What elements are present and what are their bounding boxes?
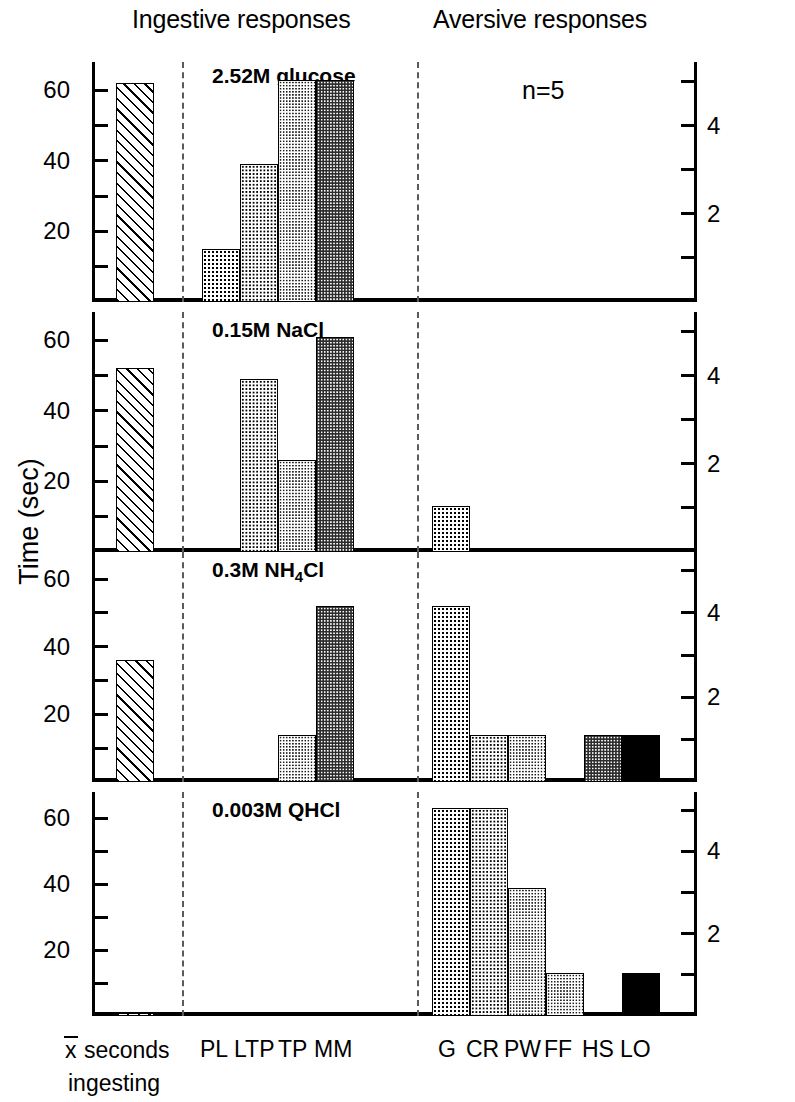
y-tick-right-1	[681, 506, 694, 509]
group-separator-2	[417, 62, 419, 302]
bar-g	[432, 808, 470, 1016]
y-tick-right-5	[681, 330, 694, 333]
y-tick-label-right-2: 2	[707, 685, 720, 709]
x-label-cr: CR	[466, 1036, 499, 1063]
bar-hs	[584, 735, 622, 782]
y-tick-right-2	[681, 932, 694, 935]
x-label-g: G	[438, 1036, 456, 1063]
group-separator-1	[182, 792, 184, 1016]
y-tick-left-40	[95, 883, 108, 886]
bar-lo	[622, 735, 660, 782]
y-tick-left-20	[95, 480, 108, 483]
x-label-mean: x seconds	[64, 1036, 170, 1064]
panel-title: 0.15M NaCl	[212, 318, 324, 342]
y-tick-label-left-20: 20	[43, 938, 70, 962]
bar-pw	[508, 888, 546, 1016]
y-tick-left-30	[95, 195, 108, 198]
bar-ltp	[240, 164, 278, 302]
axis-line-right	[694, 312, 697, 552]
bar-tp	[278, 735, 316, 782]
y-tick-label-left-60: 60	[43, 328, 70, 352]
y-tick-label-left-60: 60	[43, 567, 70, 591]
y-tick-left-30	[95, 445, 108, 448]
y-tick-right-5	[681, 569, 694, 572]
y-tick-label-left-40: 40	[43, 399, 70, 423]
y-tick-label-right-4: 4	[707, 839, 720, 863]
y-tick-left-60	[95, 578, 108, 581]
y-tick-right-3	[681, 418, 694, 421]
chart-panel-3: 204060240.3M NH4Cl	[92, 552, 697, 782]
chart-panel-1: 204060242.52M glucosen=5	[92, 62, 697, 302]
y-tick-left-10	[95, 747, 108, 750]
y-tick-label-right-4: 4	[707, 364, 720, 388]
y-tick-left-60	[95, 817, 108, 820]
group-separator-2	[417, 552, 419, 782]
y-tick-left-30	[95, 916, 108, 919]
y-axis-left-title: Time (sec)	[14, 397, 45, 647]
bar-g	[432, 506, 470, 552]
x-label-pl: PL	[200, 1036, 228, 1063]
y-tick-left-30	[95, 679, 108, 682]
x-bar-overline: x	[64, 1036, 78, 1062]
y-tick-right-3	[681, 654, 694, 657]
bar-cr	[470, 808, 508, 1016]
y-tick-left-50	[95, 124, 108, 127]
y-tick-right-2	[681, 462, 694, 465]
x-label-ltp: LTP	[234, 1036, 274, 1063]
bar-x-seconds-ingesting	[116, 660, 154, 782]
y-tick-left-40	[95, 645, 108, 648]
bar-mm	[316, 606, 354, 782]
y-tick-right-2	[681, 212, 694, 215]
bar-ff	[546, 973, 584, 1016]
y-tick-label-left-20: 20	[43, 219, 70, 243]
y-tick-right-5	[681, 809, 694, 812]
y-tick-right-1	[681, 973, 694, 976]
x-label-tp: TP	[278, 1036, 307, 1063]
group-separator-2	[417, 792, 419, 1016]
axis-line-right	[694, 552, 697, 782]
plot-area: 204060242.52M glucosen=5	[92, 62, 697, 302]
plot-area: 204060240.003M QHCl	[92, 792, 697, 1016]
bar-x-seconds-ingesting	[116, 368, 154, 552]
y-tick-label-left-20: 20	[43, 469, 70, 493]
x-label-mean-text: seconds	[78, 1037, 170, 1063]
y-tick-right-4	[681, 124, 694, 127]
bar-cr	[470, 735, 508, 782]
y-tick-right-5	[681, 80, 694, 83]
bar-mm	[316, 337, 354, 552]
bar-g	[432, 606, 470, 782]
chart-panel-4: 204060240.003M QHCl	[92, 792, 697, 1016]
y-tick-label-left-40: 40	[43, 635, 70, 659]
bar-ltp	[240, 379, 278, 552]
y-tick-left-20	[95, 230, 108, 233]
sample-size-note: n=5	[522, 76, 564, 105]
x-label-mm: MM	[314, 1036, 352, 1063]
y-tick-label-left-60: 60	[43, 78, 70, 102]
bar-pl	[202, 249, 240, 302]
header-ingestive: Ingestive responses	[132, 5, 351, 34]
x-label-pw: PW	[504, 1036, 541, 1063]
y-tick-left-50	[95, 374, 108, 377]
bar-x-seconds-ingesting	[116, 83, 154, 302]
y-tick-label-left-40: 40	[43, 872, 70, 896]
y-tick-label-right-2: 2	[707, 922, 720, 946]
panel-group-headers: Ingestive responses Aversive responses	[0, 2, 795, 38]
y-tick-left-50	[95, 611, 108, 614]
bar-tp	[278, 460, 316, 552]
y-tick-right-4	[681, 374, 694, 377]
bar-mm	[316, 80, 354, 302]
panel-title: 0.003M QHCl	[212, 798, 340, 822]
axis-line-right	[694, 792, 697, 1016]
y-tick-label-left-60: 60	[43, 806, 70, 830]
group-separator-1	[182, 62, 184, 302]
y-tick-right-1	[681, 256, 694, 259]
group-separator-1	[182, 312, 184, 552]
group-separator-1	[182, 552, 184, 782]
y-tick-right-3	[681, 891, 694, 894]
axis-line-right	[694, 62, 697, 302]
y-tick-right-4	[681, 611, 694, 614]
y-tick-left-40	[95, 409, 108, 412]
bar-x-seconds-ingesting	[116, 1013, 154, 1016]
y-tick-right-1	[681, 738, 694, 741]
panel-title: 0.3M NH4Cl	[212, 558, 324, 585]
